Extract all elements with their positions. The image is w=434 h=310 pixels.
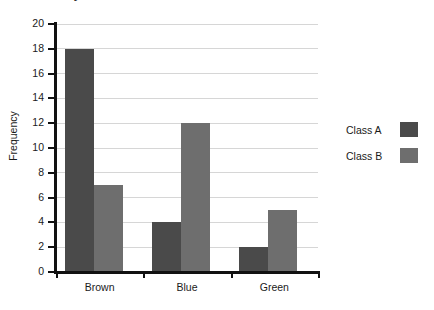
y-tick-label: 12: [14, 116, 44, 128]
legend-item: Class A: [346, 120, 430, 146]
y-tick-label: 10: [14, 141, 44, 153]
legend-label: Class A: [346, 124, 382, 136]
legend-swatch: [400, 122, 418, 137]
y-tick-label: 6: [14, 191, 44, 203]
y-tick-label: 20: [14, 17, 44, 29]
bar-chart: Eye colour for Class A and Class B Frequ…: [0, 0, 434, 310]
legend-swatch: [400, 148, 418, 163]
gridline: [56, 98, 318, 99]
x-axis-line: [54, 271, 320, 274]
y-tick-label: 0: [14, 265, 44, 277]
x-tick-label: Brown: [56, 281, 143, 293]
legend-item: Class B: [346, 146, 430, 172]
x-tick-label: Green: [231, 281, 318, 293]
gridline: [56, 48, 318, 49]
x-tick-mark: [56, 271, 58, 278]
y-tick-label: 8: [14, 166, 44, 178]
x-tick-mark: [231, 271, 233, 278]
bar: [268, 210, 297, 272]
y-axis-line: [54, 22, 57, 274]
bar: [65, 49, 94, 272]
gridline: [56, 73, 318, 74]
bar: [239, 247, 268, 272]
y-tick-label: 4: [14, 215, 44, 227]
y-tick-label: 16: [14, 67, 44, 79]
chart-title: Eye colour for Class A and Class B: [66, 0, 366, 1]
y-tick-label: 2: [14, 240, 44, 252]
x-tick-mark: [318, 271, 320, 278]
plot-area: [56, 24, 318, 272]
y-tick-label: 18: [14, 42, 44, 54]
gridline: [56, 24, 318, 25]
y-tick-label: 14: [14, 91, 44, 103]
legend-label: Class B: [346, 150, 382, 162]
chart-legend: Class AClass B: [346, 120, 430, 172]
bar: [181, 123, 210, 272]
bar: [152, 222, 181, 272]
x-tick-mark: [143, 271, 145, 278]
bar: [94, 185, 123, 272]
x-tick-label: Blue: [143, 281, 230, 293]
